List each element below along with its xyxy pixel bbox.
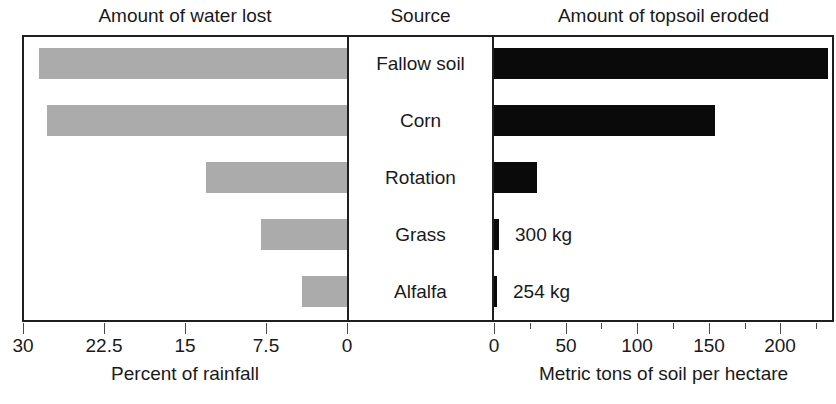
axis-tick-label: 100: [621, 334, 653, 358]
axis-tick-label: 22.5: [86, 334, 123, 358]
axis-tick-major: [494, 323, 495, 334]
axis-tick-label: 200: [764, 334, 796, 358]
axis-tick-minor: [530, 323, 531, 329]
topsoil-eroded-bar: [494, 219, 499, 250]
topsoil-eroded-bar: [494, 105, 715, 136]
topsoil-eroded-bar: [494, 48, 828, 79]
axis-tick-major: [185, 323, 186, 334]
category-label: Grass: [349, 219, 492, 250]
bar-value-annotation: 300 kg: [515, 219, 572, 250]
bar-row: Corn: [0, 92, 836, 149]
axis-title-metric-tons: Metric tons of soil per hectare: [493, 362, 834, 386]
water-lost-bar: [206, 162, 347, 193]
category-label: Rotation: [349, 162, 492, 193]
axis-tick-minor: [816, 323, 817, 329]
axis-tick-major: [347, 323, 348, 334]
axis-tick-major: [104, 323, 105, 334]
bar-row: Alfalfa254 kg: [0, 263, 836, 320]
water-lost-bar: [47, 105, 347, 136]
axis-tick-label: 15: [174, 334, 195, 358]
axis-tick-major: [709, 323, 710, 334]
heading-topsoil-eroded: Amount of topsoil eroded: [493, 4, 834, 28]
heading-water-lost: Amount of water lost: [22, 4, 348, 28]
axis-tick-label: 0: [342, 334, 353, 358]
axis-tick-major: [637, 323, 638, 334]
topsoil-eroded-bar: [494, 276, 497, 307]
water-lost-bar: [302, 276, 347, 307]
category-label: Alfalfa: [349, 276, 492, 307]
axis-tick-minor: [601, 323, 602, 329]
water-lost-bar: [39, 48, 347, 79]
axis-tick-label: 0: [489, 334, 500, 358]
bar-row: Fallow soil: [0, 35, 836, 92]
bar-row: Grass300 kg: [0, 206, 836, 263]
axis-tick-label: 30: [12, 334, 33, 358]
axis-tick-major: [780, 323, 781, 334]
axis-title-percent-rainfall: Percent of rainfall: [22, 362, 348, 386]
axis-tick-major: [23, 323, 24, 334]
category-label: Fallow soil: [349, 48, 492, 79]
axis-tick-label: 7.5: [253, 334, 279, 358]
axis-tick-minor: [673, 323, 674, 329]
axis-tick-major: [566, 323, 567, 334]
bar-value-annotation: 254 kg: [513, 276, 570, 307]
category-label: Corn: [349, 105, 492, 136]
axis-tick-minor: [745, 323, 746, 329]
axis-tick-major: [266, 323, 267, 334]
bar-row: Rotation: [0, 149, 836, 206]
heading-source: Source: [348, 4, 493, 28]
water-lost-bar: [261, 219, 347, 250]
bidirectional-bar-chart: Amount of water lost Source Amount of to…: [0, 0, 836, 404]
topsoil-eroded-bar: [494, 162, 537, 193]
axis-tick-label: 150: [693, 334, 725, 358]
axis-tick-label: 50: [555, 334, 576, 358]
